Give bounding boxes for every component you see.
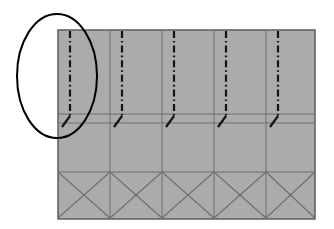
diagram-canvas: Panel assembly elevation with highlighte…	[0, 0, 334, 229]
technical-diagram: Panel assembly elevation with highlighte…	[0, 0, 334, 229]
main-panel	[58, 30, 315, 219]
